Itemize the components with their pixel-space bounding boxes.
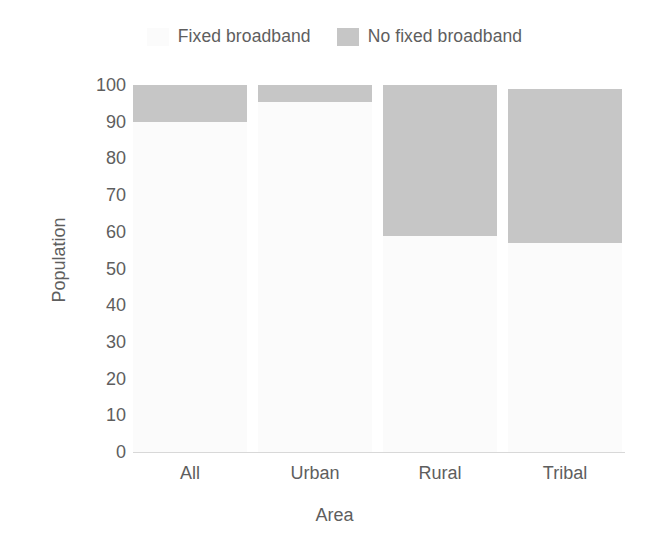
y-tick-label: 100 [80, 76, 126, 94]
bar-segment-fixed-broadband[interactable] [508, 243, 622, 452]
y-tick-label: 40 [80, 296, 126, 314]
bar-segment-fixed-broadband[interactable] [258, 102, 372, 452]
legend-swatch-no-fixed-broadband [337, 28, 359, 46]
y-axis-ticks: 100 90 80 70 60 50 40 30 20 10 0 [76, 0, 126, 559]
y-tick-label: 80 [80, 149, 126, 167]
bar-segment-no-fixed-broadband[interactable] [258, 85, 372, 102]
bar-segment-no-fixed-broadband[interactable] [508, 89, 622, 243]
y-tick-label: 0 [80, 443, 126, 461]
y-axis-title-wrap: Population [42, 0, 62, 520]
x-axis-title: Area [0, 505, 669, 526]
legend-item-no-fixed-broadband[interactable]: No fixed broadband [337, 26, 523, 47]
y-axis-title: Population [49, 180, 70, 340]
legend-swatch-fixed-broadband [147, 28, 169, 46]
x-tick-label-all: All [180, 463, 200, 484]
broadband-population-chart: Fixed broadband No fixed broadband 100 9… [0, 0, 669, 559]
bar-group-all[interactable] [133, 85, 247, 452]
y-tick-label: 10 [80, 406, 126, 424]
x-tick-label-rural: Rural [418, 463, 461, 484]
y-tick-label: 60 [80, 223, 126, 241]
plot-area [133, 85, 623, 452]
x-axis-line [133, 452, 625, 453]
x-tick-label-tribal: Tribal [543, 463, 587, 484]
y-tick-label: 70 [80, 186, 126, 204]
bar-segment-no-fixed-broadband[interactable] [133, 85, 247, 122]
legend-item-fixed-broadband[interactable]: Fixed broadband [147, 26, 311, 47]
y-tick-label: 50 [80, 260, 126, 278]
x-tick-label-urban: Urban [290, 463, 339, 484]
y-tick-label: 20 [80, 370, 126, 388]
bar-group-rural[interactable] [383, 85, 497, 452]
legend-label-no-fixed-broadband: No fixed broadband [368, 26, 523, 47]
bar-stack [508, 85, 622, 452]
bar-segment-fixed-broadband[interactable] [383, 236, 497, 452]
bar-stack [383, 85, 497, 452]
legend-label-fixed-broadband: Fixed broadband [178, 26, 311, 47]
bar-segment-no-fixed-broadband[interactable] [383, 85, 497, 236]
bar-segment-fixed-broadband[interactable] [133, 122, 247, 452]
y-tick-label: 90 [80, 113, 126, 131]
bar-group-urban[interactable] [258, 85, 372, 452]
bar-group-tribal[interactable] [508, 85, 622, 452]
bar-stack [258, 85, 372, 452]
y-tick-label: 30 [80, 333, 126, 351]
bar-stack [133, 85, 247, 452]
